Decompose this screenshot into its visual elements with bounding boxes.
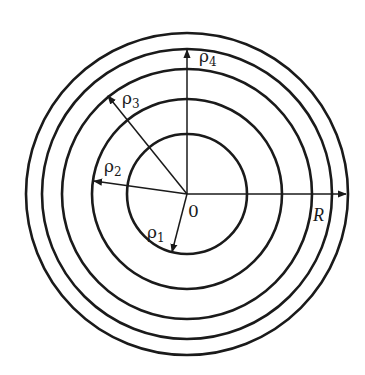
label-rho2: ρ2 xyxy=(104,156,122,179)
rho-symbol: ρ xyxy=(122,88,132,108)
rho-symbol: ρ xyxy=(104,156,114,176)
subscript: 1 xyxy=(157,231,165,245)
subscript: 2 xyxy=(114,165,122,179)
label-origin: 0 xyxy=(188,201,199,221)
radius-arrow-rho3 xyxy=(108,96,187,194)
subscript: 3 xyxy=(132,97,140,111)
label-rho4: ρ4 xyxy=(199,46,217,69)
rho-symbol: ρ xyxy=(147,222,157,242)
label-rho3: ρ3 xyxy=(122,88,140,111)
concentric-circles-diagram: ρ4 ρ3 ρ2 ρ1 0 R xyxy=(0,0,365,375)
subscript: 4 xyxy=(209,55,217,69)
radius-arrow-rho1 xyxy=(172,194,187,252)
label-R: R xyxy=(312,205,324,225)
radius-arrow-rho2 xyxy=(94,181,187,194)
label-rho1: ρ1 xyxy=(147,222,165,245)
rho-symbol: ρ xyxy=(199,46,209,66)
